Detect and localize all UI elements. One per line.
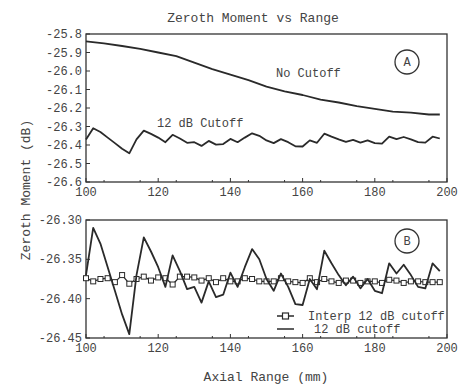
legend: Interp 12 dB cutoff 12 dB cutoff — [277, 310, 445, 337]
y-tick-label: -25.9 — [46, 47, 82, 61]
y-tick-label: -26.5 — [46, 158, 82, 172]
panel-b-label: B — [403, 235, 410, 249]
square-marker — [372, 279, 377, 284]
square-marker — [293, 280, 298, 285]
series-line — [86, 128, 440, 153]
square-marker-icon — [283, 313, 289, 319]
square-marker — [387, 277, 392, 282]
square-marker — [322, 277, 327, 282]
square-marker — [336, 280, 341, 285]
y-tick-label: -26.45 — [39, 332, 82, 346]
y-tick-label: -26.30 — [39, 214, 82, 228]
square-marker — [437, 280, 442, 285]
plot-frame — [86, 34, 447, 182]
x-tick-label: 160 — [292, 186, 314, 200]
square-marker — [394, 278, 399, 283]
square-marker — [141, 274, 146, 279]
legend-raw-label: 12 dB cutoff — [314, 323, 400, 337]
x-tick-label: 200 — [436, 342, 458, 356]
panel-a-badge: A — [395, 50, 419, 74]
x-tick-label: 140 — [220, 186, 242, 200]
square-marker — [84, 276, 89, 281]
x-tick-label: 120 — [147, 186, 169, 200]
square-marker — [170, 282, 175, 287]
y-tick-label: -26.6 — [46, 176, 82, 190]
square-marker — [127, 281, 132, 286]
x-tick-label: 200 — [436, 186, 458, 200]
square-marker — [329, 279, 334, 284]
square-marker — [300, 280, 305, 285]
square-marker — [185, 274, 190, 279]
x-tick-label: 120 — [147, 342, 169, 356]
square-marker — [98, 277, 103, 282]
panel-b-badge: B — [395, 229, 419, 253]
square-marker — [199, 278, 204, 283]
square-marker — [221, 276, 226, 281]
y-tick-label: -26.35 — [39, 253, 82, 267]
y-tick-label: -26.1 — [46, 84, 82, 98]
square-marker — [192, 275, 197, 280]
square-marker — [91, 279, 96, 284]
square-marker — [156, 275, 161, 280]
x-tick-label: 140 — [220, 342, 242, 356]
square-marker — [250, 277, 255, 282]
square-marker — [206, 276, 211, 281]
x-tick-label: 180 — [364, 342, 386, 356]
legend-interp-label: Interp 12 dB cutoff — [308, 310, 445, 324]
panel-a-label: A — [403, 56, 411, 70]
x-tick-label: 180 — [364, 186, 386, 200]
square-marker — [148, 278, 153, 283]
y-tick-label: -26.40 — [39, 293, 82, 307]
chart-title: Zeroth Moment vs Range — [167, 11, 339, 26]
y-axis-label: Zeroth Moment (dB) — [19, 120, 34, 260]
y-tick-label: -26.2 — [46, 102, 82, 116]
square-marker — [213, 280, 218, 285]
square-marker — [105, 276, 110, 281]
square-marker — [430, 280, 435, 285]
square-marker — [242, 276, 247, 281]
square-marker — [120, 273, 125, 278]
plot-panel-a: 100120140160180200-25.8-25.9-26.0-26.1-2… — [46, 28, 458, 200]
y-tick-label: -25.8 — [46, 28, 82, 42]
y-tick-label: -26.0 — [46, 65, 82, 79]
square-marker — [271, 279, 276, 284]
series-line — [86, 41, 440, 114]
y-tick-label: -26.3 — [46, 121, 82, 135]
y-tick-label: -26.4 — [46, 139, 82, 153]
chart-figure: Zeroth Moment vs Range Zeroth Moment (dB… — [0, 0, 472, 392]
x-tick-label: 160 — [292, 342, 314, 356]
x-axis-label: Axial Range (mm) — [204, 370, 329, 385]
square-marker — [401, 280, 406, 285]
annotation-12db-cutoff: 12 dB Cutoff — [157, 117, 243, 131]
square-marker — [257, 279, 262, 284]
annotation-no-cutoff: No Cutoff — [276, 67, 341, 81]
